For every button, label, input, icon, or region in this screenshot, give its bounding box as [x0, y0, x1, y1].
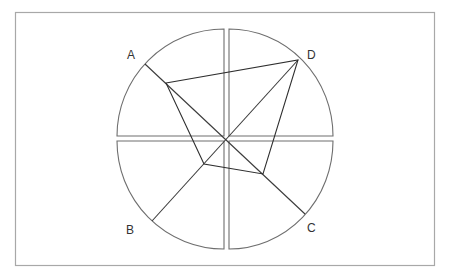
sector-top-right: [229, 29, 333, 136]
label-a: A: [127, 48, 135, 62]
label-c: C: [307, 221, 316, 235]
label-b: B: [126, 223, 134, 237]
diagram-canvas: A D B C: [0, 0, 451, 278]
label-d: D: [307, 48, 316, 62]
